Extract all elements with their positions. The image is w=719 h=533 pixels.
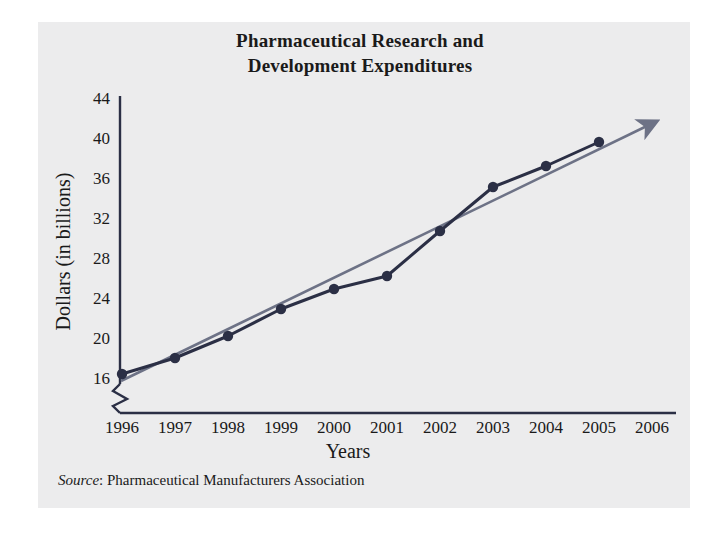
data-point-2002 [435,226,445,236]
y-tick-label-44: 44 [70,90,110,107]
x-axis-label: Years [288,440,408,463]
trend-line [121,124,651,381]
x-tick-label-2005: 2005 [569,419,629,436]
data-point-1998 [223,331,233,341]
x-tick-label-2004: 2004 [516,419,576,436]
y-tick-label-40: 40 [70,130,110,147]
y-tick-label-20: 20 [70,330,110,347]
data-point-2005 [594,137,604,147]
source-separator: : [99,472,107,488]
source-label: Source [58,472,99,488]
chart-title: Pharmaceutical Research and Development … [150,28,570,78]
x-tick-label-2000: 2000 [304,419,364,436]
data-point-1999 [276,304,286,314]
data-point-1997 [170,353,180,363]
x-tick-label-2002: 2002 [410,419,470,436]
data-point-2000 [329,284,339,294]
y-tick-label-24: 24 [70,290,110,307]
chart-title-line-1: Pharmaceutical Research and [150,28,570,53]
data-point-2001 [382,271,392,281]
x-tick-label-2003: 2003 [463,419,523,436]
y-tick-label-28: 28 [70,250,110,267]
chart-figure: Pharmaceutical Research and Development … [0,0,719,533]
x-tick-label-1998: 1998 [198,419,258,436]
x-tick-label-1996: 1996 [92,419,152,436]
source-text: Pharmaceutical Manufacturers Association [107,472,364,488]
data-line [122,142,599,374]
y-tick-label-16: 16 [70,370,110,387]
source-note: Source: Pharmaceutical Manufacturers Ass… [58,472,364,489]
chart-title-line-2: Development Expenditures [150,53,570,78]
data-point-2003 [488,182,498,192]
y-tick-label-32: 32 [70,210,110,227]
data-point-2004 [541,161,551,171]
x-tick-label-2001: 2001 [357,419,417,436]
x-tick-label-1997: 1997 [145,419,205,436]
y-axis-break-icon [113,384,127,413]
data-point-1996 [117,369,127,379]
x-tick-label-2006: 2006 [622,419,682,436]
y-tick-label-36: 36 [70,170,110,187]
x-tick-label-1999: 1999 [251,419,311,436]
